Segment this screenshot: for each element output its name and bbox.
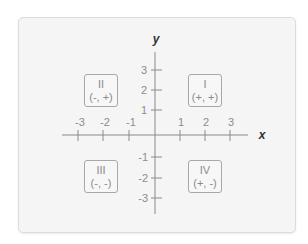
x-axis-label: x (258, 128, 267, 142)
quadrant-signs: (+, -) (193, 177, 217, 190)
y-tick-label: -2 (138, 172, 148, 184)
quadrant-signs: (-, -) (91, 177, 112, 190)
y-tick-label: -3 (138, 192, 148, 204)
quadrant-signs: (-, +) (89, 91, 113, 104)
y-tick-label: -1 (138, 151, 148, 163)
quadrant-numeral: I (203, 78, 206, 91)
y-tick-label: 2 (141, 84, 147, 96)
y-tick-label: 3 (141, 64, 147, 76)
quadrant-numeral: II (98, 78, 104, 91)
x-tick-label: 2 (203, 116, 209, 128)
quadrant-ii-box: II (-, +) (84, 74, 118, 107)
quadrant-numeral: IV (200, 164, 210, 177)
y-ticks (151, 70, 162, 198)
quadrant-numeral: III (96, 164, 105, 177)
x-tick-label: -2 (100, 116, 110, 128)
quadrant-iii-box: III (-, -) (84, 160, 118, 193)
y-axis-label: y (152, 32, 161, 46)
quadrant-signs: (+, +) (192, 91, 218, 104)
quadrant-i-box: I (+, +) (188, 74, 222, 107)
y-tick-labels: 3 2 1 -1 -2 -3 (138, 64, 148, 204)
x-tick-label: -3 (75, 116, 85, 128)
coordinate-plane: -3 -2 -1 1 2 3 3 2 1 -1 -2 -3 y x (0, 0, 308, 244)
quadrant-iv-box: IV (+, -) (188, 160, 222, 193)
x-tick-label: 1 (178, 116, 184, 128)
y-tick-label: 1 (141, 104, 147, 116)
x-tick-label: -1 (126, 116, 136, 128)
x-tick-label: 3 (228, 116, 234, 128)
